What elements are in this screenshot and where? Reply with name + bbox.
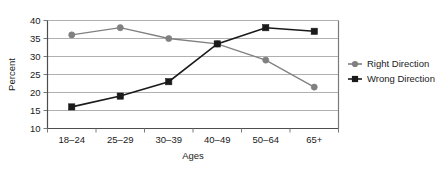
data-point — [117, 93, 123, 99]
y-axis-tick-label: 15 — [30, 105, 41, 116]
data-point — [166, 35, 172, 41]
chart-canvas: 1015202530354018–2425–2930–3940–4950–646… — [0, 0, 448, 170]
data-point — [263, 25, 269, 31]
y-axis-tick-label: 30 — [30, 51, 41, 62]
y-axis-tick-label: 25 — [30, 69, 41, 80]
x-axis-tick-label: 30–39 — [156, 134, 182, 145]
data-point — [117, 25, 123, 31]
data-point — [69, 104, 75, 110]
data-point — [263, 57, 269, 63]
series-right-direction — [69, 25, 318, 91]
y-axis-title: Percent — [6, 58, 17, 91]
x-axis-tick-label: 25–29 — [107, 134, 133, 145]
line-chart: 1015202530354018–2425–2930–3940–4950–646… — [0, 0, 448, 170]
legend: Right DirectionWrong Direction — [348, 58, 435, 84]
y-axis-tick-label: 40 — [30, 15, 41, 26]
square-marker-icon — [352, 76, 358, 82]
y-axis-tick-label: 20 — [30, 87, 41, 98]
legend-item[interactable]: Right Direction — [348, 58, 429, 69]
data-point — [69, 32, 75, 38]
series-wrong-direction — [69, 25, 318, 110]
x-axis-tick-label: 65+ — [306, 134, 323, 145]
x-axis-title: Ages — [182, 150, 204, 161]
circle-marker-icon — [352, 61, 358, 67]
y-axis-tick-label: 10 — [30, 123, 41, 134]
data-point — [166, 79, 172, 85]
data-point — [311, 28, 317, 34]
legend-item[interactable]: Wrong Direction — [348, 73, 435, 84]
y-axis-tick-label: 35 — [30, 33, 41, 44]
data-point — [311, 84, 317, 90]
series-line — [72, 28, 315, 87]
x-axis: 18–2425–2930–3940–4950–6465+ — [48, 129, 339, 146]
x-axis-tick-label: 18–24 — [59, 134, 85, 145]
legend-label: Wrong Direction — [367, 73, 435, 84]
legend-label: Right Direction — [367, 58, 429, 69]
x-axis-tick-label: 50–64 — [253, 134, 279, 145]
data-point — [214, 41, 220, 47]
x-axis-tick-label: 40–49 — [204, 134, 230, 145]
